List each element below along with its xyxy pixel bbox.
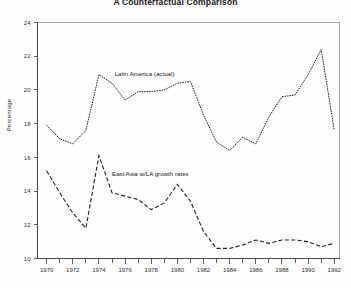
series-line-dashed xyxy=(47,156,335,249)
series-line-dotted xyxy=(47,49,335,150)
x-tick-label: 1992 xyxy=(328,267,342,273)
y-tick-label: 20 xyxy=(24,87,31,93)
x-axis-ticks: 1970197219741976197819801982198419861988… xyxy=(40,259,342,274)
y-tick-label: 18 xyxy=(24,121,31,127)
plot-area: 1012141618202224 19701972197419761978198… xyxy=(0,0,351,288)
y-tick-label: 10 xyxy=(24,256,31,262)
plot-frame xyxy=(38,22,341,259)
series-annotations: Latin America (actual)East Asia w/LA gro… xyxy=(112,70,189,176)
x-tick-label: 1972 xyxy=(66,267,80,273)
x-tick-label: 1986 xyxy=(249,267,263,273)
y-tick-label: 12 xyxy=(24,222,31,228)
x-tick-label: 1990 xyxy=(301,267,315,273)
x-tick-label: 1982 xyxy=(197,267,211,273)
data-series-group xyxy=(47,49,335,248)
x-tick-label: 1974 xyxy=(92,267,106,273)
y-tick-label: 16 xyxy=(24,155,31,161)
x-tick-label: 1984 xyxy=(223,267,237,273)
x-tick-label: 1980 xyxy=(171,267,185,273)
y-tick-label: 14 xyxy=(24,188,31,194)
series-annotation: Latin America (actual) xyxy=(115,70,175,77)
y-axis-ticks: 1012141618202224 xyxy=(24,20,38,262)
x-tick-label: 1970 xyxy=(40,267,54,273)
chart-figure: A Counterfactual Comparison Percentage 1… xyxy=(0,0,351,288)
y-tick-label: 22 xyxy=(24,53,31,59)
y-tick-label: 24 xyxy=(24,20,31,26)
x-tick-label: 1976 xyxy=(118,267,132,273)
x-tick-label: 1978 xyxy=(145,267,159,273)
series-annotation: East Asia w/LA growth rates xyxy=(112,170,189,177)
x-tick-label: 1988 xyxy=(275,267,289,273)
